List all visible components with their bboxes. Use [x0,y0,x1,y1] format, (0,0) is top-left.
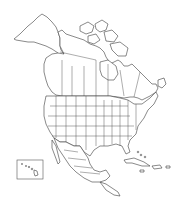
bahamas [140,154,142,156]
bahamas [144,156,146,158]
cuba [124,158,150,166]
map-svg [0,0,185,197]
hispaniola [152,165,162,169]
arctic-island [80,22,94,34]
arctic-island [95,20,108,32]
hawaii-inset [17,160,43,179]
arctic-island [88,34,100,44]
north-america-outline-map [0,0,185,197]
central-america [100,182,120,196]
newfoundland [158,78,166,88]
jamaica [140,170,144,172]
puerto-rico [166,166,170,168]
arctic-island [110,42,128,56]
bahamas [137,151,139,153]
arctic-island [104,30,118,42]
